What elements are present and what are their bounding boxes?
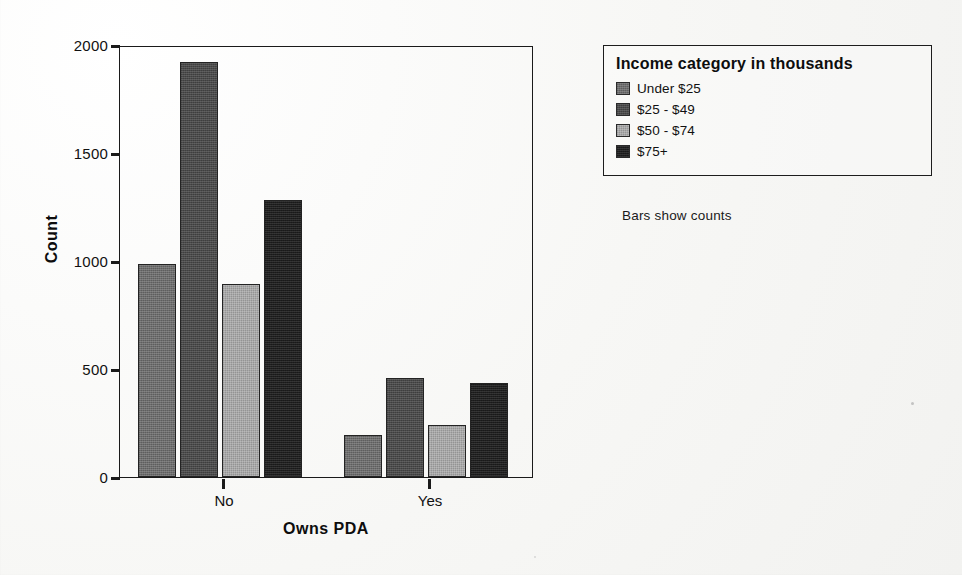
- legend-swatch-icon: [616, 145, 630, 158]
- legend-item-75-plus[interactable]: $75+: [616, 141, 931, 162]
- legend-swatch-icon: [616, 124, 630, 137]
- bar-yes-75-plus[interactable]: [470, 383, 508, 477]
- bar-yes-50-74[interactable]: [428, 425, 466, 477]
- y-axis-title: Count: [43, 169, 61, 309]
- y-tick-label: 0: [38, 469, 108, 486]
- bar-no-under-25[interactable]: [138, 264, 176, 477]
- legend-item-label: Under $25: [637, 81, 701, 96]
- chart-footnote: Bars show counts: [622, 208, 732, 223]
- bar-no-50-74[interactable]: [222, 284, 260, 478]
- legend-item-label: $75+: [637, 144, 668, 159]
- x-axis-tick: [222, 479, 225, 489]
- legend-item-under-25[interactable]: Under $25: [616, 78, 931, 99]
- bar-yes-25-49[interactable]: [386, 378, 424, 477]
- bar-no-75-plus[interactable]: [264, 200, 302, 477]
- bar-chart: 2000 1500 1000 500 0 Count No Yes Owns P…: [0, 0, 600, 575]
- y-tick-label: 500: [38, 361, 108, 378]
- y-tick-label: 2000: [38, 37, 108, 54]
- legend-swatch-icon: [616, 82, 630, 95]
- legend-item-25-49[interactable]: $25 - $49: [616, 99, 931, 120]
- legend-box: Income category in thousands Under $25 $…: [603, 45, 932, 176]
- x-tick-label-no: No: [164, 492, 284, 509]
- scan-speck: [911, 402, 914, 405]
- legend-title: Income category in thousands: [616, 55, 931, 73]
- legend-item-label: $25 - $49: [637, 102, 695, 117]
- legend-item-label: $50 - $74: [637, 123, 695, 138]
- plot-area: [120, 47, 531, 477]
- x-axis-title: Owns PDA: [119, 520, 533, 538]
- legend-item-50-74[interactable]: $50 - $74: [616, 120, 931, 141]
- bar-no-25-49[interactable]: [180, 62, 218, 477]
- legend-swatch-icon: [616, 103, 630, 116]
- y-tick-label: 1500: [38, 145, 108, 162]
- x-axis-tick: [428, 479, 431, 489]
- x-tick-label-yes: Yes: [370, 492, 490, 509]
- bar-yes-under-25[interactable]: [344, 435, 382, 477]
